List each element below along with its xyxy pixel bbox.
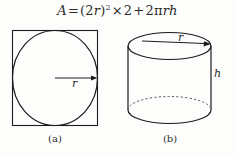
panel-b-group <box>128 33 211 124</box>
cylinder-bottom-hidden-arc <box>128 97 211 110</box>
cylinder-top-ellipse <box>128 33 211 60</box>
panel-a-group <box>13 31 98 126</box>
caption-a: (a) <box>35 133 75 144</box>
radius-label-a: r <box>72 77 77 90</box>
radius-label-b: r <box>178 31 183 44</box>
figure-container: A=(2r)2×2+2πrh r r h (a) (b) <box>0 0 235 157</box>
caption-b: (b) <box>150 133 190 144</box>
radius-arrow-line-b <box>142 41 205 44</box>
radius-arrow-head-a <box>91 75 98 80</box>
height-label-b: h <box>214 67 221 80</box>
cylinder-bottom-front-arc <box>128 110 211 124</box>
